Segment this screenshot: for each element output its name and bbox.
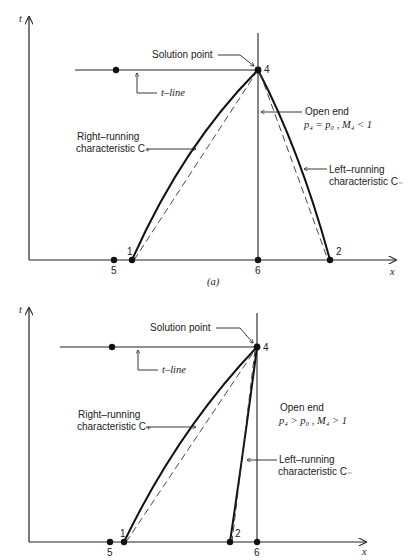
point-5 xyxy=(107,539,113,545)
point-4-label: 4 xyxy=(263,342,269,353)
characteristics-diagram: t x t–line Solution point 4 Right–runnin… xyxy=(0,0,415,560)
point-2-label: 2 xyxy=(336,246,342,257)
point-2 xyxy=(327,257,333,263)
open-end-condition: p₄ = p₀ , M₄ < 1 xyxy=(303,119,372,130)
solution-point-label: Solution point xyxy=(152,49,213,60)
t-axis-label: t xyxy=(19,13,23,24)
t-line-point xyxy=(109,344,115,350)
left-running-characteristic xyxy=(230,347,257,542)
left-running-chord xyxy=(260,73,328,260)
right-running-chord xyxy=(134,73,256,260)
left-running-label-1: Left–running xyxy=(329,164,385,175)
point-2-label: 2 xyxy=(235,528,241,539)
point-5-label: 5 xyxy=(107,547,113,558)
solution-point-label: Solution point xyxy=(150,322,211,333)
right-running-label-2: characteristic C₊ xyxy=(76,143,150,154)
open-end-condition: p₄ > p₀ , M₄ > 1 xyxy=(278,415,347,426)
right-running-chord xyxy=(126,350,255,542)
point-1 xyxy=(121,539,127,545)
point-6 xyxy=(254,539,260,545)
t-line-point xyxy=(113,67,119,73)
x-axis-label: x xyxy=(361,546,367,557)
point-4-label: 4 xyxy=(264,64,270,75)
x-axis-label: x xyxy=(389,266,395,277)
solution-point-pointer xyxy=(218,55,254,66)
right-running-label-1: Right–running xyxy=(78,409,140,420)
left-running-label-2: characteristic C₋ xyxy=(329,176,403,187)
point-6-label: 6 xyxy=(255,265,261,276)
t-line-pointer xyxy=(137,73,157,93)
t-line-label: t–line xyxy=(162,364,186,375)
open-end-label: Open end xyxy=(280,402,324,413)
figure-b: t x t–line Solution point 4 Right–runnin… xyxy=(19,304,367,558)
right-running-label-2: characteristic C₊ xyxy=(77,421,151,432)
point-2 xyxy=(227,539,233,545)
figure-caption: (a) xyxy=(207,276,220,288)
point-1 xyxy=(129,257,135,263)
left-running-label-1: Left–running xyxy=(279,454,335,465)
point-5-label: 5 xyxy=(111,265,117,276)
point-1-label: 1 xyxy=(120,528,126,539)
t-line-pointer xyxy=(138,350,158,370)
point-6-label: 6 xyxy=(254,547,260,558)
point-5 xyxy=(111,257,117,263)
point-6 xyxy=(255,257,261,263)
left-running-label-2: characteristic C₋ xyxy=(278,466,352,477)
t-line-label: t–line xyxy=(161,87,185,98)
figure-a: t x t–line Solution point 4 Right–runnin… xyxy=(19,13,403,288)
t-axis-label: t xyxy=(19,304,23,315)
right-running-label-1: Right–running xyxy=(77,131,139,142)
open-end-label: Open end xyxy=(305,106,349,117)
point-1-label: 1 xyxy=(127,246,133,257)
solution-point-pointer xyxy=(216,328,253,343)
